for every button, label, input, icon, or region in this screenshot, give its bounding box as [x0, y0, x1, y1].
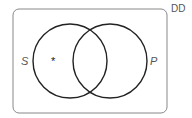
set-label-s: S: [21, 55, 28, 67]
circle-p: [73, 24, 147, 98]
circle-s: [33, 24, 107, 98]
set-label-p: P: [150, 55, 157, 67]
universe-frame: [13, 9, 167, 113]
venn-diagram: [0, 0, 192, 118]
asterisk-marker: *: [51, 55, 55, 67]
corner-label: DD: [171, 3, 185, 14]
